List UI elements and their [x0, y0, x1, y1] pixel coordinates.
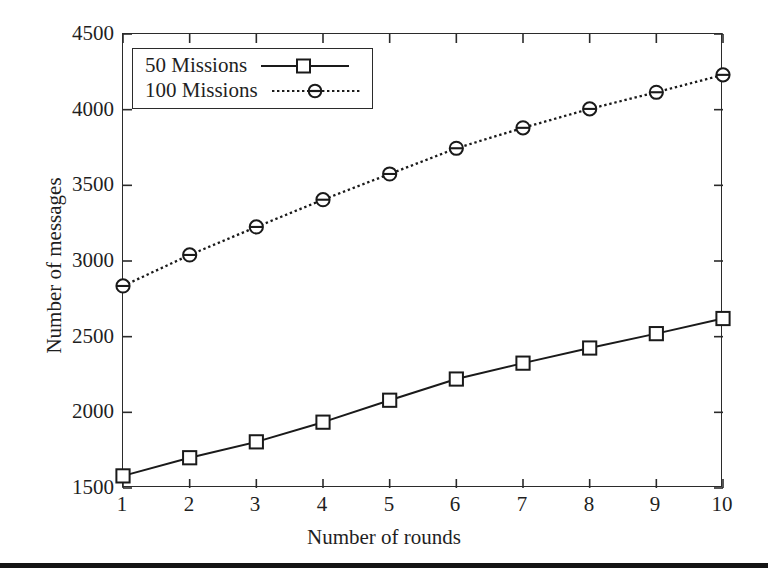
legend-label: 50 Missions [145, 55, 259, 76]
x-axis-tick-label: 9 [635, 492, 675, 516]
data-point-marker-square [516, 357, 529, 370]
data-point-marker-square [583, 341, 596, 354]
y-axis-tick-label: 4500 [28, 23, 114, 44]
data-point-marker-square [716, 312, 729, 325]
data-point-marker-square [116, 469, 129, 482]
legend-sample-solid-square-icon [259, 55, 351, 77]
x-axis-tick-label: 3 [235, 492, 275, 516]
data-point-marker-square [450, 372, 463, 385]
data-point-marker-square [183, 451, 196, 464]
series-line-1 [123, 319, 723, 476]
legend: 50 Missions 100 Missions [132, 48, 373, 109]
figure-chart-number-of-messages: 1500 2000 2500 3000 3500 4000 4500 1 2 3… [0, 0, 768, 573]
y-axis-tick-label: 2000 [28, 401, 114, 422]
page-edge-rule [0, 563, 768, 568]
x-axis-tick-label: 1 [102, 492, 142, 516]
x-axis-tick-label: 6 [435, 492, 475, 516]
y-axis-title: Number of messages [44, 116, 65, 416]
data-series-group [116, 68, 729, 482]
y-axis-tick-label: 4000 [28, 99, 114, 120]
x-axis-tick-label: 5 [369, 492, 409, 516]
x-axis-tick-label: 7 [502, 492, 542, 516]
x-axis-tick-label: 4 [302, 492, 342, 516]
data-point-marker-square [650, 327, 663, 340]
legend-entry-100-missions: 100 Missions [145, 78, 362, 103]
x-axis-title: Number of rounds [0, 527, 768, 548]
data-point-marker-square [383, 394, 396, 407]
x-axis-tick-label: 10 [702, 492, 742, 516]
x-axis-tick-label: 2 [169, 492, 209, 516]
x-axis-tick-label: 8 [569, 492, 609, 516]
legend-sample-dotted-circle-icon [270, 80, 362, 102]
data-point-marker-square [316, 416, 329, 429]
legend-entry-50-missions: 50 Missions [145, 53, 362, 78]
legend-label: 100 Missions [145, 80, 270, 101]
data-point-marker-square [250, 435, 263, 448]
